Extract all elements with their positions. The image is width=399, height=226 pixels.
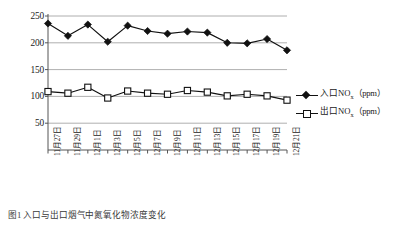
- filled-diamond-icon: [296, 89, 318, 101]
- x-axis-tick-label: 12月17日: [250, 126, 261, 156]
- open-square-icon: [296, 107, 318, 119]
- x-axis-tick-label: 12月7日: [151, 130, 162, 156]
- x-axis-tick-label: 12月5日: [131, 130, 142, 156]
- x-axis-tick-label: 11月29日: [71, 126, 82, 156]
- x-axis-tick-label: 12月15日: [230, 126, 241, 156]
- chart-legend: 入口NOx（ppm） 出口NOx（ppm）: [296, 86, 396, 122]
- legend-item-outlet: 出口NOx（ppm）: [296, 104, 396, 122]
- x-axis-tick-label: 12月3日: [111, 130, 122, 156]
- x-axis-tick-label: 12月13日: [211, 126, 222, 156]
- x-axis-tick-label: 12月11日: [191, 126, 202, 156]
- figure-container: 50100150200250 11月27日11月29日12月1日12月3日12月…: [0, 0, 399, 226]
- x-axis-tick-label: 12月19日: [270, 126, 281, 156]
- legend-item-inlet: 入口NOx（ppm）: [296, 86, 396, 104]
- figure-caption-text: 图1 入口与出口烟气中氮氧化物浓度变化: [8, 208, 166, 220]
- chart-plot-area: 50100150200250 11月27日11月29日12月1日12月3日12月…: [0, 0, 399, 206]
- x-axis-tick-label: 12月21日: [290, 126, 301, 156]
- legend-label-inlet: 入口NOx（ppm）: [318, 89, 385, 100]
- figure-caption: 图1 入口与出口烟气中氮氧化物浓度变化: [0, 208, 399, 226]
- x-axis-tick-label: 12月1日: [91, 130, 102, 156]
- x-axis-tick-label: 11月27日: [51, 126, 62, 156]
- x-axis-tick-label: 12月9日: [171, 130, 182, 156]
- legend-label-outlet: 出口NOx（ppm）: [318, 107, 385, 118]
